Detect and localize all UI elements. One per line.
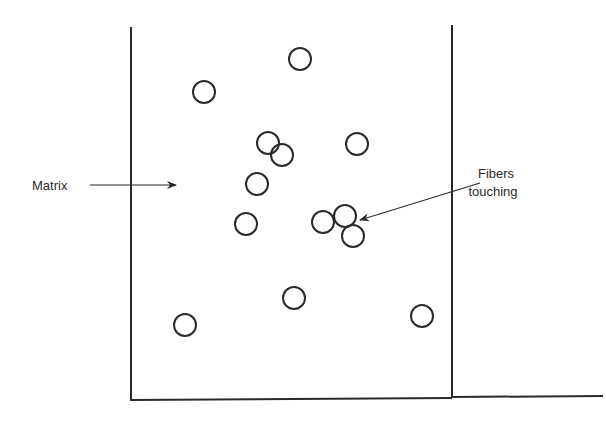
matrix-label: Matrix [32, 178, 68, 193]
fiber-matrix-diagram: Matrix Fibers touching [0, 0, 606, 426]
fiber [346, 133, 368, 155]
fiber [246, 173, 268, 195]
bottom-extension-line [452, 396, 603, 397]
fiber [193, 81, 215, 103]
fiber-touching [342, 225, 364, 247]
fibers-touching-label-line1: Fibers [478, 166, 515, 181]
fiber [411, 305, 433, 327]
fiber-touching [312, 211, 334, 233]
fiber-touching [334, 205, 356, 227]
fiber [235, 213, 257, 235]
fibers-touching-label-line2: touching [468, 184, 517, 199]
fiber [283, 287, 305, 309]
fiber [257, 132, 279, 154]
fiber [174, 314, 196, 336]
fibers [174, 48, 433, 336]
fiber [271, 144, 293, 166]
bottom-boundary-line [130, 398, 452, 400]
fibers-touching-arrow [360, 183, 480, 220]
fiber [289, 48, 311, 70]
